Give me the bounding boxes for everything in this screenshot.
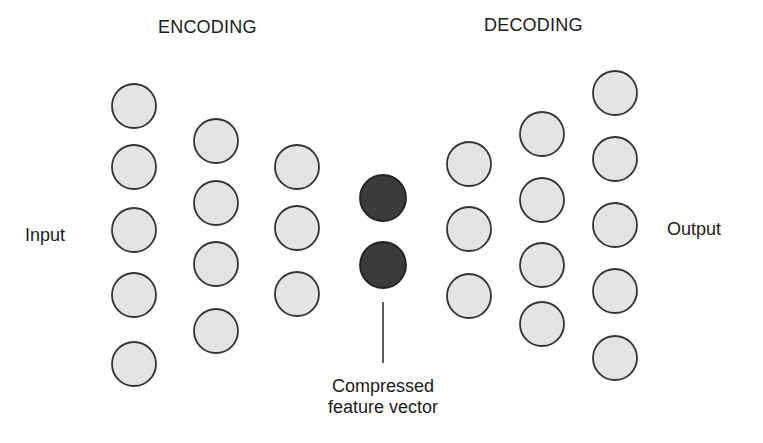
neuron-node: [520, 243, 564, 287]
input-layer: [112, 84, 156, 386]
neuron-node: [593, 269, 637, 313]
compressed-label-line1: Compressed: [318, 376, 448, 397]
decoder-hidden-2: [520, 112, 564, 346]
neuron-node: [112, 342, 156, 386]
compressed-label-line2: feature vector: [318, 397, 448, 418]
neuron-node: [593, 203, 637, 247]
neuron-node: [593, 71, 637, 115]
neuron-node: [593, 336, 637, 380]
compressed-feature-vector-label: Compressed feature vector: [318, 376, 448, 418]
decoder-hidden-1: [447, 142, 491, 318]
encoder-hidden-1: [194, 119, 238, 353]
neuron-node: [112, 145, 156, 189]
encoding-title: ENCODING: [158, 17, 257, 37]
neuron-node: [593, 137, 637, 181]
neuron-node: [112, 84, 156, 128]
output-label: Output: [667, 219, 721, 239]
bottleneck-node: [360, 242, 406, 288]
bottleneck-node: [360, 175, 406, 221]
neuron-node: [112, 273, 156, 317]
decoding-title: DECODING: [484, 15, 583, 35]
input-label: Input: [25, 225, 65, 245]
bottleneck: [360, 175, 406, 288]
neuron-node: [112, 208, 156, 252]
neuron-node: [447, 274, 491, 318]
output-layer: [593, 71, 637, 380]
neuron-node: [194, 181, 238, 225]
neuron-node: [194, 119, 238, 163]
encoder-hidden-2: [275, 145, 319, 316]
neuron-node: [520, 178, 564, 222]
neuron-node: [194, 242, 238, 286]
network-nodes: [112, 71, 637, 386]
neuron-node: [275, 206, 319, 250]
neuron-node: [275, 145, 319, 189]
neuron-node: [520, 302, 564, 346]
neuron-node: [447, 142, 491, 186]
neuron-node: [520, 112, 564, 156]
neuron-node: [447, 207, 491, 251]
neuron-node: [194, 309, 238, 353]
neuron-node: [275, 272, 319, 316]
